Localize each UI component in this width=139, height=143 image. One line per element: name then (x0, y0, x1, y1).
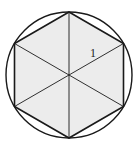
hexagon-in-circle-diagram: 1 (0, 0, 139, 143)
side-length-label: 1 (90, 46, 96, 60)
